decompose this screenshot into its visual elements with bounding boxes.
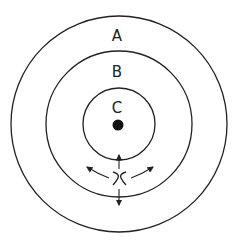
center-dot — [113, 120, 124, 131]
ring-a-label: A — [112, 27, 123, 45]
arrow-right-icon — [131, 167, 153, 178]
arrow-left-icon — [87, 167, 109, 178]
ring-c-label: C — [112, 99, 122, 117]
particle-symbol — [113, 172, 126, 185]
concentric-rings-diagram: A B C — [0, 0, 239, 243]
ring-b-label: B — [112, 63, 122, 81]
